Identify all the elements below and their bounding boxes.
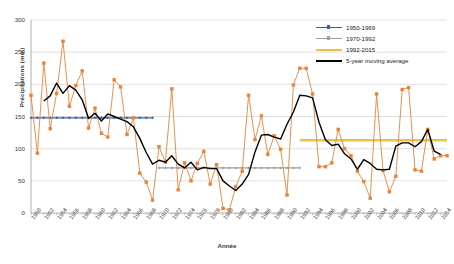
legend-swatch-icon [316, 45, 342, 54]
legend-item[interactable]: 1950-1969 [316, 22, 408, 33]
legend-label: 5-year moving average [346, 57, 408, 64]
precipitation-chart: Précipitations (mm) Année 05010015020025… [0, 0, 454, 264]
legend-label: 1992-2015 [346, 46, 375, 53]
legend-item[interactable]: 1970-1992 [316, 33, 408, 44]
legend-swatch-icon [316, 23, 342, 32]
legend-item[interactable]: 1992-2015 [316, 44, 408, 55]
legend-label: 1970-1992 [346, 35, 375, 42]
legend-item[interactable]: 5-year moving average [316, 55, 408, 66]
legend-label: 1950-1969 [346, 24, 375, 31]
legend-swatch-icon [316, 34, 342, 43]
chart-legend: 1950-19691970-19921992-20155-year moving… [316, 22, 408, 66]
legend-swatch-icon [316, 56, 342, 65]
